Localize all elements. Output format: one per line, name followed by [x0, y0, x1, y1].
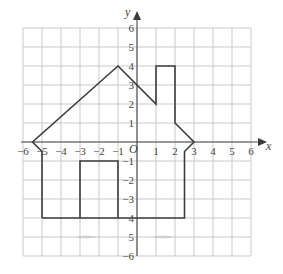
y-tick-label: 5 — [129, 41, 135, 53]
x-tick-label: −3 — [74, 145, 86, 157]
x-tick-label: −2 — [93, 145, 105, 157]
x-tick-label: −5 — [36, 145, 48, 157]
y-tick-label: −6 — [122, 250, 134, 262]
y-tick-label: −3 — [122, 193, 134, 205]
x-tick-label: 4 — [210, 145, 216, 157]
y-tick-label: 2 — [129, 98, 135, 110]
y-tick-label: −1 — [122, 155, 134, 167]
y-tick-label: 4 — [129, 60, 135, 72]
x-tick-label: 6 — [248, 145, 254, 157]
y-tick-label: 6 — [129, 22, 135, 34]
coordinate-grid-diagram: −6−5−4−3−2−1123456123456−1−2−345−6 x y O — [0, 0, 283, 274]
y-tick-label: 1 — [129, 117, 135, 129]
x-tick-label: 5 — [229, 145, 235, 157]
x-tick-label: 1 — [153, 145, 159, 157]
x-tick-label: −4 — [55, 145, 67, 157]
x-tick-label: 2 — [172, 145, 178, 157]
origin-label: O — [129, 142, 138, 156]
y-tick-label: −2 — [122, 174, 134, 186]
y-axis-arrow-icon — [133, 11, 141, 20]
y-tick-label: 4 — [129, 212, 135, 224]
y-axis-label: y — [124, 5, 131, 19]
y-tick-label: 3 — [129, 79, 135, 91]
y-tick-label: 5 — [129, 231, 135, 243]
x-tick-label: 3 — [191, 145, 197, 157]
x-tick-label: −6 — [17, 145, 29, 157]
x-axis-label: x — [265, 139, 272, 153]
